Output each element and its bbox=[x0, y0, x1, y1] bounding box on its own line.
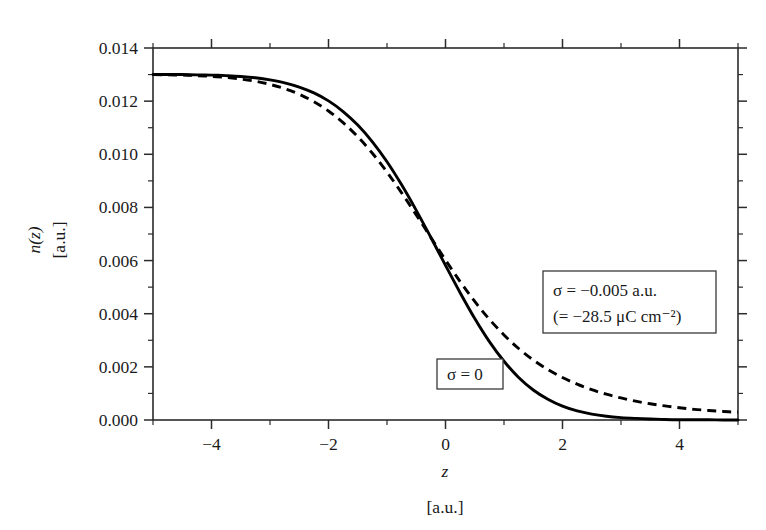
x-tick-label: −2 bbox=[319, 434, 338, 454]
x-tick-label: 0 bbox=[441, 434, 450, 454]
x-tick-label: −4 bbox=[202, 434, 221, 454]
y-tick-label: 0.008 bbox=[99, 197, 139, 217]
figure-container: −4−2024 0.0000.0020.0040.0060.0080.0100.… bbox=[0, 0, 766, 530]
x-tick-label: 2 bbox=[558, 434, 567, 454]
x-axis-label: z bbox=[441, 461, 449, 481]
y-tick-label: 0.004 bbox=[99, 304, 139, 324]
x-axis-tick-labels: −4−2024 bbox=[202, 434, 684, 454]
y-axis-units-label: [a.u.] bbox=[49, 222, 69, 259]
annotation-line1-sigma-charged: σ = −0.005 a.u. bbox=[553, 281, 657, 300]
y-axis-label: n(z) bbox=[24, 226, 44, 253]
x-axis-units-label: [a.u.] bbox=[427, 497, 464, 517]
y-tick-label: 0.014 bbox=[99, 38, 139, 58]
y-tick-label: 0.006 bbox=[99, 251, 139, 271]
chart-annotations: σ = −0.005 a.u.(= −28.5 μC cm⁻²)σ = 0 bbox=[437, 271, 716, 389]
annotation-line1-sigma-zero: σ = 0 bbox=[447, 365, 483, 384]
y-axis-tick-labels: 0.0000.0020.0040.0060.0080.0100.0120.014 bbox=[99, 38, 139, 430]
y-tick-label: 0.010 bbox=[99, 144, 139, 164]
y-tick-label: 0.000 bbox=[99, 410, 139, 430]
x-tick-label: 4 bbox=[675, 434, 684, 454]
annotation-line2-sigma-charged: (= −28.5 μC cm⁻²) bbox=[553, 307, 681, 326]
y-tick-label: 0.002 bbox=[99, 357, 138, 377]
y-tick-label: 0.012 bbox=[99, 91, 138, 111]
chart-canvas: −4−2024 0.0000.0020.0040.0060.0080.0100.… bbox=[0, 0, 766, 530]
